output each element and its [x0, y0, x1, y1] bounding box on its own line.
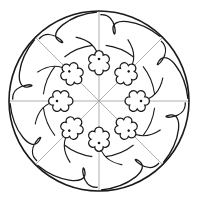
teardrop-swirl [163, 102, 185, 162]
quatrefoil-flower [89, 127, 110, 151]
ring-arc [106, 145, 134, 157]
teardrop-swirl [37, 165, 97, 187]
flower-center-dot [56, 100, 59, 103]
ring-arc [64, 45, 92, 57]
ring-arc [143, 108, 155, 136]
teardrop-swirl [13, 39, 35, 99]
teardrop-swirl [100, 15, 160, 37]
ring-arc [64, 145, 92, 157]
quatrefoil-flower [89, 51, 110, 75]
flower-center-dot [98, 142, 101, 145]
ring-arc [43, 66, 55, 94]
quatrefoil-flower [49, 91, 73, 112]
quatrefoil-flower [125, 91, 149, 112]
ring-arc [43, 108, 55, 136]
flower-center-dot [140, 100, 143, 103]
radial-lines [9, 11, 189, 191]
flower-center-dot [98, 58, 101, 61]
mandala-drawing [0, 0, 200, 204]
ring-arc [143, 66, 155, 94]
ring-arc [106, 45, 134, 57]
